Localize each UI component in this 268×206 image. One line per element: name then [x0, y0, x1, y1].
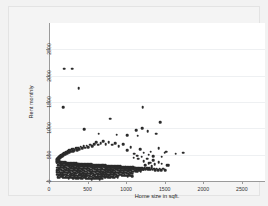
gridline: [49, 155, 265, 156]
scatter-point: [137, 158, 140, 161]
scatter-point: [116, 133, 119, 136]
plot-region: 05001000150020002500 0500100015002000250…: [49, 23, 265, 181]
scatter-point: [122, 143, 125, 146]
scatter-point: [135, 129, 138, 132]
scatter-point: [77, 87, 80, 90]
scatter-point: [111, 143, 114, 146]
scatter-point: [165, 150, 168, 153]
x-axis-line: [49, 181, 265, 182]
scatter-point: [140, 170, 143, 173]
scatter-point: [174, 152, 177, 155]
scatter-point: [97, 132, 100, 135]
scatter-point: [107, 141, 110, 144]
scatter-point: [99, 142, 102, 145]
gridline: [49, 128, 265, 129]
scatter-point: [144, 164, 147, 167]
y-tick-label: 2000: [46, 70, 52, 82]
scatter-point: [182, 151, 185, 154]
gridline: [49, 49, 265, 50]
scatter-point: [143, 151, 146, 154]
x-tick-mark: [126, 181, 127, 184]
scatter-point: [150, 150, 153, 153]
scatter-point: [147, 153, 150, 156]
scatter-point: [143, 160, 146, 163]
scatter-point: [104, 143, 107, 146]
x-tick-label: 1000: [120, 186, 132, 192]
figure-border: 05001000150020002500 0500100015002000250…: [8, 6, 260, 196]
x-tick-label: 500: [83, 186, 92, 192]
scatter-point: [136, 154, 139, 157]
scatter-point: [139, 148, 142, 151]
scatter-point: [71, 68, 74, 71]
scatter-point: [140, 155, 143, 158]
scatter-point: [126, 134, 129, 137]
scatter-point: [97, 143, 100, 146]
scatter-point: [133, 157, 136, 160]
scatter-point: [131, 175, 134, 178]
y-tick-label: 500: [46, 150, 52, 159]
scatter-point: [136, 134, 139, 137]
scatter-point: [114, 142, 117, 145]
x-tick-mark: [242, 181, 243, 184]
y-tick-label: 1500: [46, 96, 52, 108]
scatter-point: [62, 106, 65, 109]
x-tick-mark: [165, 181, 166, 184]
y-axis-title: Rent monthly: [27, 23, 35, 181]
scatter-point: [126, 149, 129, 152]
scatter-point: [145, 167, 148, 170]
scatter-point: [141, 106, 144, 109]
scatter-point: [159, 121, 162, 124]
scatter-point: [83, 128, 86, 131]
scatter-point: [118, 145, 121, 148]
scatter-point: [63, 68, 66, 71]
scatter-point: [109, 118, 112, 121]
gridline: [49, 102, 265, 103]
scatter-point: [129, 146, 132, 149]
x-tick-label: 1500: [159, 186, 171, 192]
x-tick-label: 2500: [236, 186, 248, 192]
scatter-point: [102, 140, 105, 143]
scatter-point: [157, 147, 160, 150]
x-tick-label: 2000: [198, 186, 210, 192]
scatter-point: [160, 162, 163, 165]
y-axis-tick-labels: 05001000150020002500: [41, 23, 49, 181]
scatter-point: [146, 130, 149, 133]
scatter-point: [146, 158, 149, 161]
scatter-point: [153, 163, 156, 166]
y-tick-label: 0: [46, 180, 52, 183]
scatter-point: [160, 155, 163, 158]
scatter-point: [152, 159, 155, 162]
figure-canvas: 05001000150020002500 0500100015002000250…: [0, 0, 268, 206]
y-tick-label: 2500: [46, 44, 52, 56]
scatter-point: [116, 176, 119, 179]
scatter-point: [164, 169, 167, 172]
scatter-point: [147, 162, 150, 165]
scatter-point: [141, 127, 144, 130]
scatter-point: [150, 165, 153, 168]
scatter-point: [152, 155, 155, 158]
x-axis-title: Home size in sqft.: [49, 193, 265, 199]
gridline: [49, 76, 265, 77]
y-axis-title-text: Rent monthly: [28, 86, 34, 119]
scatter-point: [167, 164, 170, 167]
x-tick-mark: [203, 181, 204, 184]
scatter-point: [155, 132, 158, 135]
x-tick-label: 0: [48, 186, 51, 192]
x-tick-mark: [88, 181, 89, 184]
y-tick-label: 1000: [46, 123, 52, 135]
scatter-point: [101, 177, 104, 180]
